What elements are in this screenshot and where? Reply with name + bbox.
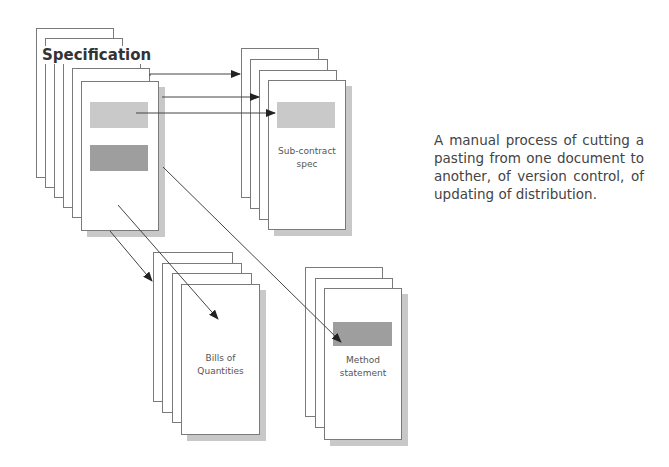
arrow-spec-to-bills-2 xyxy=(118,205,218,319)
process-description: A manual process of cutting a pasting fr… xyxy=(434,131,644,203)
arrow-spec-to-subcontract-1 xyxy=(150,74,240,76)
arrows-layer xyxy=(0,0,669,467)
arrow-spec-to-bills-1 xyxy=(110,231,152,281)
arrow-spec-to-method xyxy=(163,167,341,342)
